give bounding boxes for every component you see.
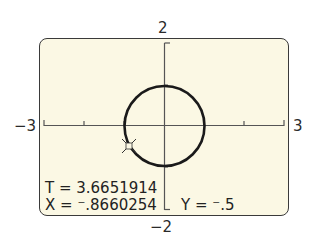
ymax-label: 2: [158, 21, 168, 36]
y-readout: Y = ⁻.5: [181, 198, 235, 213]
xmin-label: −3: [14, 119, 36, 134]
trace-cursor-icon: [122, 139, 136, 153]
ymin-label: −2: [150, 220, 172, 235]
t-readout: T = 3.6651914: [45, 181, 157, 196]
x-readout: X = ⁻.8660254: [45, 198, 157, 213]
xmax-label: 3: [293, 119, 303, 134]
